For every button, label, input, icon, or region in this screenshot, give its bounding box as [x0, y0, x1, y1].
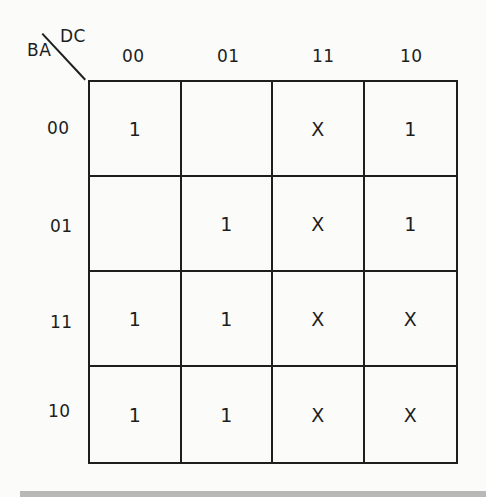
col-header-11: 11: [312, 48, 335, 65]
cell-r0-c3: 1: [365, 82, 457, 177]
cell-r2-c0: 1: [90, 272, 182, 367]
cell-r3-c3: X: [365, 367, 457, 462]
col-header-00: 00: [122, 48, 145, 65]
row-header-10: 10: [48, 403, 71, 420]
cell-r1-c2: X: [273, 177, 365, 272]
kmap-grid: 1 X 1 1 X 1 1 1 X X 1 1 X X: [88, 80, 458, 464]
cell-r0-c2: X: [273, 82, 365, 177]
col-header-10: 10: [400, 48, 423, 65]
row-header-11: 11: [50, 314, 73, 331]
cell-r2-c3: X: [365, 272, 457, 367]
cell-r1-c3: 1: [365, 177, 457, 272]
cell-r2-c1: 1: [182, 272, 274, 367]
cell-r3-c1: 1: [182, 367, 274, 462]
col-header-01: 01: [217, 48, 240, 65]
cell-r0-c1: [182, 82, 274, 177]
cell-r0-c0: 1: [90, 82, 182, 177]
row-header-01: 01: [50, 218, 73, 235]
cell-r1-c0: [90, 177, 182, 272]
column-variable-label: DC: [60, 28, 86, 45]
row-header-00: 00: [47, 120, 70, 137]
bottom-divider: [20, 491, 486, 497]
cell-r3-c2: X: [273, 367, 365, 462]
cell-r3-c0: 1: [90, 367, 182, 462]
cell-r2-c2: X: [273, 272, 365, 367]
cell-r1-c1: 1: [182, 177, 274, 272]
row-variable-label: BA: [27, 42, 51, 59]
